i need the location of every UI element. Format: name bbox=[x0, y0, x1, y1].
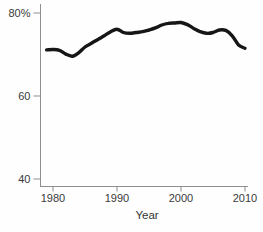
chart-canvas: 406080%1980199020002010 Year bbox=[0, 0, 263, 232]
x-tick-label: 1990 bbox=[105, 192, 129, 204]
x-tick-label: 1980 bbox=[41, 192, 65, 204]
x-axis-title: Year bbox=[135, 209, 158, 221]
x-tick-label: 2000 bbox=[169, 192, 193, 204]
tick-labels-layer: 406080%1980199020002010 bbox=[8, 7, 257, 204]
y-tick-label: 80% bbox=[8, 7, 30, 19]
y-tick-label: 40 bbox=[18, 173, 30, 185]
data-line-series bbox=[47, 22, 245, 56]
x-tick-label: 2010 bbox=[233, 192, 257, 204]
y-tick-label: 60 bbox=[18, 90, 30, 102]
ticks-layer bbox=[34, 13, 246, 192]
line-chart: 406080%1980199020002010 Year bbox=[0, 0, 263, 232]
